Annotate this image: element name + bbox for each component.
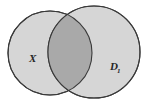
venn-diagram-figure: X D 1 (0, 0, 148, 104)
set-label-right-subscript: 1 (117, 67, 121, 75)
set-label-left: X (28, 52, 37, 64)
venn-diagram-canvas: X D 1 (0, 0, 148, 104)
